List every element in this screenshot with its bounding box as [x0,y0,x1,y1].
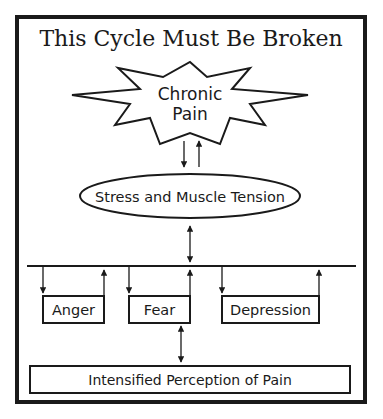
diagram-title: This Cycle Must Be Broken [39,26,342,51]
chronic-pain-label-1: Chronic [158,84,223,104]
depression-label: Depression [230,302,311,318]
anger-label: Anger [52,302,95,318]
outer-frame [17,17,365,402]
intensified-pain-label: Intensified Perception of Pain [88,372,292,388]
cycle-diagram: This Cycle Must Be Broken Chronic Pain S… [0,0,383,419]
stress-label: Stress and Muscle Tension [95,189,285,205]
chronic-pain-label-2: Pain [172,104,207,124]
fear-label: Fear [144,302,175,318]
